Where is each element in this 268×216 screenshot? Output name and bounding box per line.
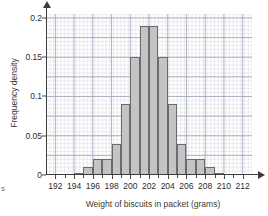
x-axis-arrow-icon <box>258 171 265 179</box>
x-tick-mark <box>224 175 225 179</box>
histogram-bar <box>158 57 167 175</box>
histogram-bar <box>130 57 139 175</box>
x-tick-label: 194 <box>67 181 81 191</box>
histogram-bar <box>140 26 149 175</box>
x-tick-label: 208 <box>198 181 212 191</box>
x-tick-label: 206 <box>179 181 193 191</box>
x-axis-title: Weight of biscuits in packet (grams) <box>40 199 266 209</box>
histogram-bar <box>93 159 102 175</box>
x-tick-mark <box>149 175 150 179</box>
histogram-bar <box>102 159 111 175</box>
x-tick-mark <box>93 175 94 179</box>
x-tick-label: 210 <box>217 181 231 191</box>
x-minor-tick-mark <box>102 175 103 178</box>
histogram-bar <box>121 104 130 175</box>
x-tick-mark <box>112 175 113 179</box>
y-tick-label: 0.15 <box>25 52 42 62</box>
y-tick-label: 0.1 <box>30 91 42 101</box>
x-tick-mark <box>55 175 56 179</box>
x-tick-mark <box>205 175 206 179</box>
x-tick-mark <box>168 175 169 179</box>
x-axis-line <box>46 174 260 175</box>
x-minor-tick-mark <box>158 175 159 178</box>
histogram-bar <box>149 26 158 175</box>
x-minor-tick-mark <box>215 175 216 178</box>
x-minor-tick-mark <box>140 175 141 178</box>
y-tick-label: 0.05 <box>25 131 42 141</box>
x-minor-tick-mark <box>233 175 234 178</box>
x-tick-label: 200 <box>123 181 137 191</box>
x-tick-label: 204 <box>161 181 175 191</box>
histogram-figure: s Frequency density Weight of biscuits i… <box>0 0 268 216</box>
plot-area: 00.050.10.150.2 192194196198200202204206… <box>46 14 252 175</box>
x-minor-tick-mark <box>83 175 84 178</box>
x-minor-tick-mark <box>121 175 122 178</box>
y-tick-label: 0.2 <box>30 13 42 23</box>
y-axis-line <box>46 6 47 175</box>
x-tick-mark <box>243 175 244 179</box>
x-tick-label: 198 <box>104 181 118 191</box>
y-axis-title: Frequency density <box>9 33 19 153</box>
x-tick-mark <box>74 175 75 179</box>
histogram-bar <box>112 144 121 175</box>
histogram-bar <box>196 159 205 175</box>
y-tick-label: 0 <box>37 170 42 180</box>
x-minor-tick-mark <box>65 175 66 178</box>
histogram-bar <box>168 104 177 175</box>
stray-cropped-letter: s <box>1 184 5 194</box>
x-tick-mark <box>186 175 187 179</box>
x-tick-label: 202 <box>142 181 156 191</box>
x-minor-tick-mark <box>177 175 178 178</box>
y-axis-arrow-icon <box>43 1 51 8</box>
histogram-bar <box>177 144 186 175</box>
histogram-bar <box>186 159 195 175</box>
x-tick-label: 192 <box>48 181 62 191</box>
x-minor-tick-mark <box>196 175 197 178</box>
x-tick-label: 212 <box>236 181 250 191</box>
x-tick-label: 196 <box>86 181 100 191</box>
x-tick-mark <box>130 175 131 179</box>
